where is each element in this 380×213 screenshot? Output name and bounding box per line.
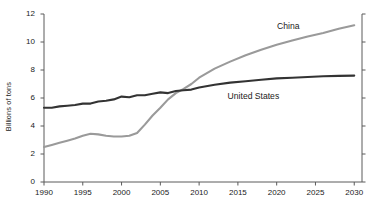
series-label-united-states: United States xyxy=(228,91,280,101)
y-tick-label: 12 xyxy=(15,9,35,18)
y-axis-ticks xyxy=(41,14,45,182)
x-tick-label: 2000 xyxy=(104,188,140,197)
data-series-group xyxy=(44,25,354,147)
x-axis-ticks xyxy=(44,182,354,186)
x-tick-label: 2020 xyxy=(259,188,295,197)
x-tick-label: 1995 xyxy=(65,188,101,197)
x-tick-label: 2025 xyxy=(297,188,333,197)
chart-plot-area xyxy=(0,0,380,213)
chart-figure: Billions of tons 024681012 1990199520002… xyxy=(0,0,380,213)
series-label-china: China xyxy=(277,21,299,31)
line-series-united-states xyxy=(44,76,354,108)
x-tick-label: 2005 xyxy=(142,188,178,197)
y-tick-label: 0 xyxy=(15,177,35,186)
x-tick-label: 1990 xyxy=(26,188,62,197)
y-tick-label: 6 xyxy=(15,93,35,102)
axis-lines xyxy=(44,14,362,182)
y-tick-label: 4 xyxy=(15,121,35,130)
x-tick-label: 2010 xyxy=(181,188,217,197)
y-tick-label: 8 xyxy=(15,65,35,74)
y-axis-right-ticks xyxy=(362,14,366,182)
x-tick-label: 2015 xyxy=(220,188,256,197)
line-series-china xyxy=(44,25,354,147)
y-tick-label: 2 xyxy=(15,149,35,158)
y-tick-label: 10 xyxy=(15,37,35,46)
x-tick-label: 2030 xyxy=(336,188,372,197)
